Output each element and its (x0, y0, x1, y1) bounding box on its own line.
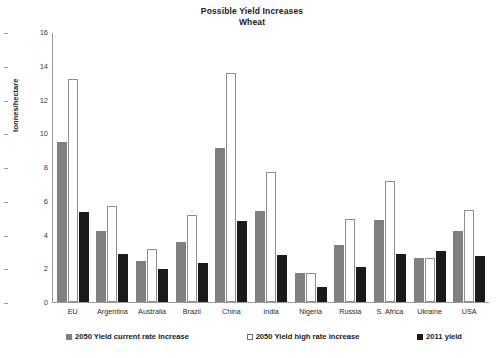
y-axis-tick-mark (4, 101, 8, 102)
bar-argentina-s1[interactable] (96, 231, 106, 302)
y-axis-tick-mark (4, 33, 8, 34)
y-axis-tick-label: 0 (8, 299, 48, 307)
bar-russia-s2[interactable] (345, 219, 355, 302)
bar-usa-s2[interactable] (464, 210, 474, 302)
x-axis-line (52, 302, 489, 303)
x-axis-category-labels: EUArgentinaAustraliaBrazilChinaIndiaNige… (53, 307, 489, 316)
bar-ukraine-s2[interactable] (425, 258, 435, 302)
yield-bar-chart: Possible Yield Increases Wheat tonnes/he… (0, 0, 504, 358)
bar-group (410, 33, 450, 302)
bar-china-s2[interactable] (226, 73, 236, 302)
bar-brazil-s1[interactable] (176, 242, 186, 302)
bar-australia-s1[interactable] (136, 261, 146, 302)
x-axis-tick-label: Nigeria (291, 307, 331, 316)
y-axis-tick-mark (4, 168, 8, 169)
bar-group (212, 33, 252, 302)
bar-group (132, 33, 172, 302)
bar-group (291, 33, 331, 302)
chart-legend: 2050 Yield current rate increase2050 Yie… (52, 332, 472, 341)
bar-argentina-s2[interactable] (107, 206, 117, 302)
x-axis-tick-label: USA (449, 307, 489, 316)
legend-swatch-icon (417, 334, 423, 340)
legend-swatch-icon (247, 334, 253, 340)
legend-item[interactable]: 2050 Yield current rate increase (66, 332, 189, 341)
bar-usa-s3[interactable] (475, 256, 485, 302)
x-axis-tick-label: S. Africa (370, 307, 410, 316)
y-axis-tick-label: 12 (8, 97, 48, 105)
bar-s-africa-s1[interactable] (374, 220, 384, 302)
bar-s-africa-s2[interactable] (385, 181, 395, 303)
x-axis-tick-label: Argentina (93, 307, 133, 316)
bar-eu-s2[interactable] (68, 79, 78, 302)
bar-china-s3[interactable] (237, 221, 247, 302)
y-axis-tick-label: 4 (8, 232, 48, 240)
legend-label: 2011 yield (426, 332, 462, 341)
legend-item[interactable]: 2050 Yield high rate increase (247, 332, 360, 341)
bar-group (370, 33, 410, 302)
bar-s-africa-s3[interactable] (396, 254, 406, 302)
bar-eu-s1[interactable] (57, 142, 67, 302)
y-axis-tick-label: 16 (8, 29, 48, 37)
bar-nigeria-s1[interactable] (295, 273, 305, 302)
y-axis-tick-label: 8 (8, 164, 48, 172)
x-axis-tick-label: Australia (132, 307, 172, 316)
chart-title: Possible Yield Increases (0, 6, 504, 17)
legend-item[interactable]: 2011 yield (417, 332, 462, 341)
bar-argentina-s3[interactable] (118, 254, 128, 302)
x-axis-tick-label: China (212, 307, 252, 316)
bar-china-s1[interactable] (215, 148, 225, 302)
y-axis-tick-mark (4, 269, 8, 270)
y-axis-tick-label: 14 (8, 63, 48, 71)
x-axis-tick-label: Russia (330, 307, 370, 316)
bar-nigeria-s3[interactable] (317, 287, 327, 302)
chart-subtitle: Wheat (0, 17, 504, 28)
y-axis-tick-mark (4, 303, 8, 304)
bar-brazil-s2[interactable] (187, 215, 197, 302)
y-axis-tick-mark (4, 134, 8, 135)
x-axis-tick-label: Brazil (172, 307, 212, 316)
plot-area: 0246810121416 (52, 33, 489, 303)
bar-groups (53, 33, 489, 302)
bar-ukraine-s3[interactable] (436, 251, 446, 302)
y-axis-label: tonnes/hectare (11, 32, 20, 132)
legend-swatch-icon (66, 334, 72, 340)
chart-title-block: Possible Yield Increases Wheat (0, 6, 504, 28)
bar-group (53, 33, 93, 302)
legend-label: 2050 Yield current rate increase (75, 332, 189, 341)
bar-australia-s3[interactable] (158, 269, 168, 302)
bar-group (251, 33, 291, 302)
bar-brazil-s3[interactable] (198, 263, 208, 302)
bar-australia-s2[interactable] (147, 249, 157, 302)
bar-group (93, 33, 133, 302)
bar-usa-s1[interactable] (453, 231, 463, 302)
y-axis-tick-mark (4, 202, 8, 203)
bar-russia-s1[interactable] (334, 245, 344, 302)
y-axis-tick-mark (4, 67, 8, 68)
bar-india-s1[interactable] (255, 211, 265, 302)
y-axis-tick-label: 6 (8, 198, 48, 206)
y-axis-tick-label: 10 (8, 130, 48, 138)
bar-russia-s3[interactable] (356, 267, 366, 302)
bar-nigeria-s2[interactable] (306, 273, 316, 302)
bar-group (330, 33, 370, 302)
y-axis-tick-mark (4, 236, 8, 237)
bar-india-s3[interactable] (277, 255, 287, 302)
bar-ukraine-s1[interactable] (414, 258, 424, 302)
x-axis-tick-label: EU (53, 307, 93, 316)
bar-eu-s3[interactable] (79, 212, 89, 302)
x-axis-tick-label: India (251, 307, 291, 316)
bar-india-s2[interactable] (266, 172, 276, 302)
y-axis-tick-label: 2 (8, 265, 48, 273)
bar-group (172, 33, 212, 302)
bar-group (449, 33, 489, 302)
x-axis-tick-label: Ukraine (410, 307, 450, 316)
legend-label: 2050 Yield high rate increase (256, 332, 360, 341)
